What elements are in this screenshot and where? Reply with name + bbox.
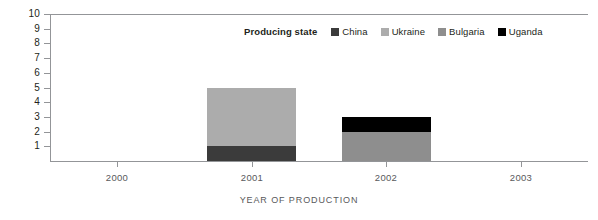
legend-label: Uganda: [509, 26, 543, 37]
legend-label: Bulgaria: [449, 26, 485, 37]
y-axis-label: 4: [0, 97, 40, 107]
x-axis-title: YEAR OF PRODUCTION: [0, 195, 598, 206]
y-axis-label: 1: [0, 141, 40, 151]
x-axis-tick: [252, 162, 253, 167]
x-axis-line: [50, 161, 588, 162]
bar-segment: [207, 88, 296, 147]
legend-label: China: [342, 26, 367, 37]
bar-chart: 12345678910 2000200120022003 YEAR OF PRO…: [0, 0, 598, 220]
y-axis-label: 8: [0, 38, 40, 48]
bar-stack: [207, 88, 296, 162]
y-axis-label: 10: [0, 9, 40, 19]
legend-label: Ukraine: [392, 26, 425, 37]
legend-item-list: ChinaUkraineBulgariaUganda: [331, 26, 542, 37]
x-axis-tick: [117, 162, 118, 167]
x-axis-label: 2003: [486, 172, 556, 183]
y-axis-label: 3: [0, 112, 40, 122]
legend-item[interactable]: Uganda: [498, 26, 543, 37]
x-axis-label: 2001: [217, 172, 287, 183]
y-axis-label: 5: [0, 83, 40, 93]
legend-item[interactable]: Bulgaria: [438, 26, 485, 37]
legend-item[interactable]: China: [331, 26, 367, 37]
x-axis-label: 2000: [82, 172, 152, 183]
legend-swatch-icon: [498, 28, 506, 36]
x-axis-tick: [521, 162, 522, 167]
legend-item[interactable]: Ukraine: [381, 26, 425, 37]
y-axis-label: 6: [0, 68, 40, 78]
bar-segment: [207, 146, 296, 161]
bar-segment: [342, 117, 431, 132]
x-axis-tick: [386, 162, 387, 167]
legend-swatch-icon: [438, 28, 446, 36]
chart-legend: Producing state ChinaUkraineBulgariaUgan…: [244, 26, 543, 37]
legend-swatch-icon: [381, 28, 389, 36]
y-axis-label: 9: [0, 24, 40, 34]
legend-swatch-icon: [331, 28, 339, 36]
bar-stack: [342, 117, 431, 161]
bar-segment: [342, 132, 431, 161]
y-axis-label: 7: [0, 53, 40, 63]
x-axis-label: 2002: [351, 172, 421, 183]
y-axis-label: 2: [0, 127, 40, 137]
legend-title: Producing state: [244, 26, 317, 37]
